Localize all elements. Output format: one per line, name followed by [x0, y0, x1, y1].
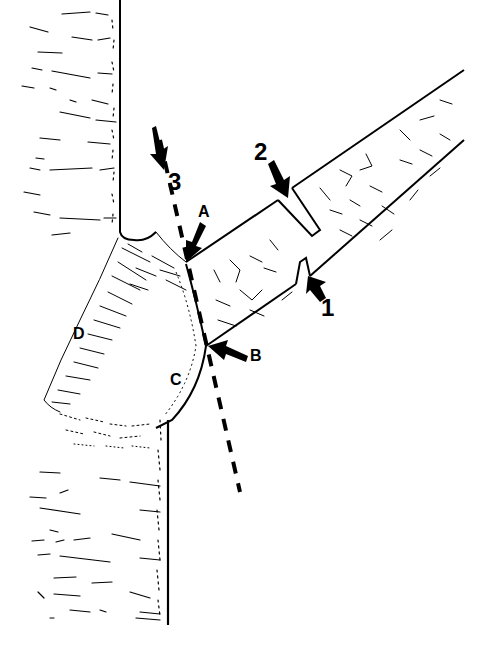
- label-cut-2: 2: [254, 140, 267, 164]
- label-cut-3: 3: [168, 170, 181, 194]
- region-d-collar-tissue: [44, 232, 186, 448]
- branch-outline-bottom: [206, 284, 296, 346]
- trunk-outline-upper: [120, 0, 156, 240]
- arrow-2-icon: [268, 160, 290, 198]
- pruning-diagram: 3 2 1 A B C D: [0, 0, 487, 645]
- label-region-d: D: [73, 326, 85, 342]
- branch-outline-top-far: [292, 70, 464, 188]
- label-point-b: B: [250, 348, 262, 364]
- lower-trunk-bark-texture: [30, 420, 161, 620]
- branch-texture: [214, 100, 452, 326]
- label-region-c: C: [170, 372, 182, 388]
- arrow-b-icon: [208, 340, 248, 362]
- region-c-branch-collar: [156, 264, 206, 428]
- trunk-bark-texture: [22, 12, 116, 235]
- label-point-a: A: [198, 204, 210, 220]
- label-cut-1: 1: [321, 296, 334, 320]
- diagram-drawing: [0, 0, 487, 645]
